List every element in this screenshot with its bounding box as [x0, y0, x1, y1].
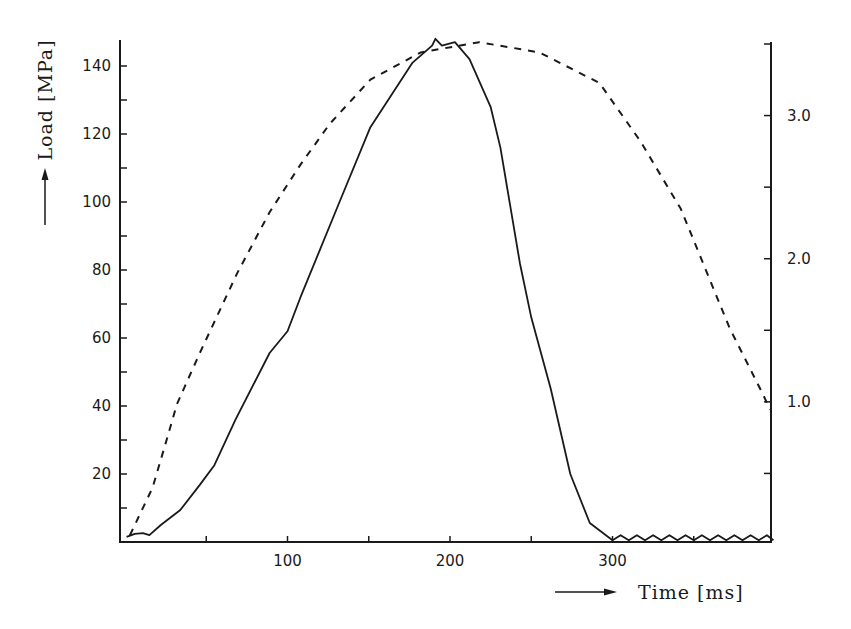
- y-tick-label: 140: [82, 57, 111, 75]
- x-axis-title-group: Time [ms]: [555, 581, 744, 603]
- y-axis-title-group: Load [MPa]: [34, 39, 56, 225]
- y-tick-label: 20: [92, 465, 111, 483]
- x-tick-label: 200: [436, 552, 465, 570]
- y-tick-label: 120: [82, 125, 111, 143]
- x-tick-label: 100: [273, 552, 302, 570]
- dashed-series-line: [130, 42, 770, 535]
- x-axis-arrow-icon: [555, 589, 617, 596]
- axes: [120, 40, 771, 543]
- ticks: 204060801001201401002003001.02.03.0: [82, 44, 811, 570]
- data-series: [127, 39, 774, 541]
- y-axis-title: Load [MPa]: [34, 39, 56, 160]
- y-tick-label: 80: [92, 261, 111, 279]
- y-tick-label: 60: [92, 329, 111, 347]
- y-tick-label: 100: [82, 193, 111, 211]
- y-axis-arrow-icon: [42, 168, 49, 225]
- load-time-chart: 204060801001201401002003001.02.03.0 Load…: [0, 0, 851, 629]
- y-tick-label: 40: [92, 397, 111, 415]
- y2-tick-label: 1.0: [787, 393, 811, 411]
- y2-tick-label: 2.0: [787, 250, 811, 268]
- x-axis-title: Time [ms]: [638, 581, 744, 603]
- y2-tick-label: 3.0: [787, 107, 811, 125]
- solid-series-line: [127, 39, 774, 541]
- x-tick-label: 300: [598, 552, 627, 570]
